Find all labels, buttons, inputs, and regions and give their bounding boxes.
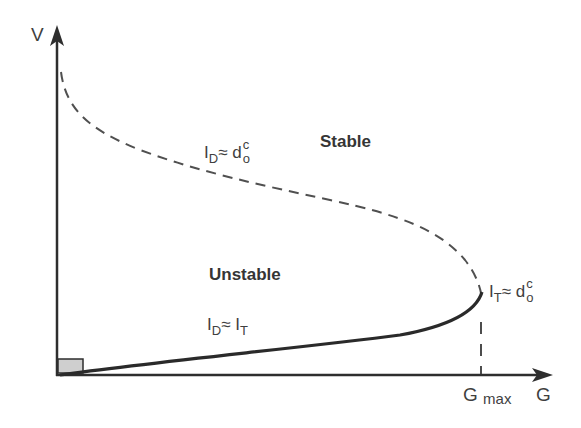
diagram-canvas: [0, 0, 581, 428]
turning-point-annotation: IT≈ dco: [489, 282, 537, 302]
g-axis-label: G: [536, 384, 551, 406]
solid-curve-annotation: ID≈ IT: [207, 315, 248, 335]
sup-sub-stack: co: [525, 282, 537, 302]
approx-sign: ≈: [221, 315, 230, 334]
symbol-d: d: [232, 143, 241, 162]
approx-sign: ≈: [218, 143, 227, 162]
solid-curve: [60, 292, 482, 375]
approx-sign: ≈: [502, 282, 511, 301]
dashed-curve-annotation: ID≈ dco: [204, 143, 254, 163]
subscript-o: o: [526, 290, 533, 305]
stable-region-label: Stable: [320, 132, 371, 152]
symbol-d: d: [516, 282, 525, 301]
subscript-t: T: [494, 290, 502, 305]
superscript-c: c: [526, 276, 533, 291]
unstable-region-label: Unstable: [209, 265, 281, 285]
gmax-label: G max: [463, 384, 511, 406]
subscript-o: o: [243, 151, 250, 166]
superscript-c: c: [243, 137, 250, 152]
gmax-main: G: [463, 384, 478, 405]
subscript-d: D: [212, 323, 221, 338]
subscript-d: D: [209, 151, 218, 166]
v-axis-label: V: [31, 24, 44, 46]
gmax-sub: max: [483, 390, 511, 407]
subscript-t: T: [240, 323, 248, 338]
sup-sub-stack: co: [242, 143, 254, 163]
